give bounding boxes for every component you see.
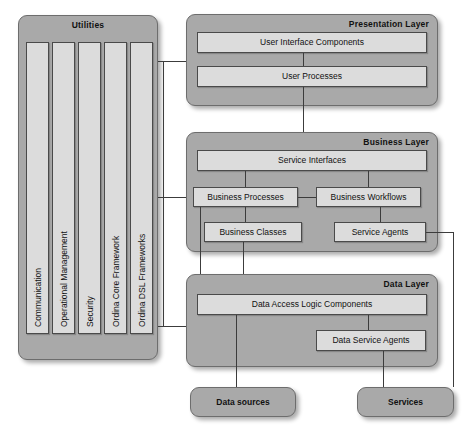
serviceinterfaces-to-businessprocesses-line	[245, 171, 246, 187]
terminal-data-sources[interactable]: Data sources	[190, 387, 296, 417]
box-service-agents[interactable]: Service Agents	[334, 222, 426, 242]
utilities-column-operational-management[interactable]: Operational Management	[52, 42, 75, 334]
box-label: Data Service Agents	[332, 336, 409, 345]
terminal-label: Services	[388, 397, 423, 407]
serviceagents-to-services-line	[453, 232, 454, 387]
businessprocesses-to-businessclasses-line	[245, 207, 246, 222]
data-layer-title: Data Layer	[384, 279, 429, 289]
presentation-layer-panel: Presentation Layer	[186, 14, 438, 106]
box-user-processes[interactable]: User Processes	[197, 66, 427, 87]
box-data-service-agents[interactable]: Data Service Agents	[316, 330, 426, 351]
serviceinterfaces-to-businessworkflows-line	[368, 171, 369, 187]
utilities-column-ordina-dsl-frameworks[interactable]: Ordina DSL Frameworks	[130, 42, 153, 334]
box-service-interfaces[interactable]: Service Interfaces	[197, 150, 427, 171]
box-label: User Processes	[282, 72, 342, 81]
box-business-classes[interactable]: Business Classes	[204, 222, 302, 242]
box-label: Business Workflows	[331, 193, 407, 202]
presentation-layer-title: Presentation Layer	[349, 19, 429, 29]
utilities-column-label: Ordina DSL Frameworks	[136, 234, 146, 327]
data-layer-panel: Data Layer	[186, 274, 438, 367]
dataserviceagents-to-services-line	[383, 351, 384, 387]
business-layer-title: Business Layer	[363, 137, 429, 147]
box-label: User Interface Components	[260, 38, 364, 47]
utilities-column-label: Communication	[32, 268, 42, 327]
dalc-to-dataserviceagents-line	[368, 315, 369, 330]
serviceagents-right-stub-line	[426, 232, 454, 233]
box-label: Service Interfaces	[278, 156, 346, 165]
utilities-column-ordina-core-framework[interactable]: Ordina Core Framework	[104, 42, 127, 334]
utilities-column-communication[interactable]: Communication	[26, 42, 49, 334]
box-user-interface-components[interactable]: User Interface Components	[197, 32, 427, 53]
utilities-spine-line	[163, 61, 164, 326]
box-label: Business Processes	[207, 193, 284, 202]
box-label: Service Agents	[352, 228, 409, 237]
box-label: Data Access Logic Components	[252, 300, 372, 309]
utilities-column-label: Operational Management	[58, 231, 68, 327]
dalc-to-datasources-line	[236, 315, 237, 387]
box-label: Business Classes	[219, 228, 286, 237]
utilities-panel-title: Utilities	[19, 20, 157, 30]
utilities-column-security[interactable]: Security	[78, 42, 101, 334]
utilities-column-label: Ordina Core Framework	[110, 236, 120, 327]
box-business-processes[interactable]: Business Processes	[193, 187, 298, 207]
businessworkflows-to-serviceagents-line	[380, 207, 381, 222]
uic-to-userprocesses-line	[303, 53, 304, 66]
box-business-workflows[interactable]: Business Workflows	[316, 187, 421, 207]
businessprocesses-to-businessworkflows-line	[298, 197, 316, 198]
architecture-diagram: Utilities Communication Operational Mana…	[0, 0, 470, 431]
terminal-services[interactable]: Services	[357, 387, 454, 417]
utilities-column-label: Security	[84, 296, 94, 327]
terminal-label: Data sources	[216, 397, 269, 407]
box-data-access-logic-components[interactable]: Data Access Logic Components	[197, 294, 427, 315]
